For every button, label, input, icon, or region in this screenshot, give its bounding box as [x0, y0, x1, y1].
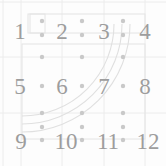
grid-number-7: 7 [98, 75, 110, 98]
overlay-left-box [28, 14, 45, 33]
grid-dot [80, 84, 84, 88]
grid-dot [80, 138, 84, 142]
grid-number-8: 8 [139, 75, 151, 98]
grid-dot [80, 111, 84, 115]
grid-dot [80, 125, 84, 129]
overlay-outer-band [30, 14, 145, 33]
grid-dot [121, 55, 125, 59]
grid-dot [121, 125, 125, 129]
grid-number-10: 10 [55, 130, 78, 153]
grid-dot [121, 84, 125, 88]
grid-dot [40, 111, 44, 115]
grid-number-11: 11 [97, 130, 119, 153]
grid-dot [80, 33, 84, 37]
dot-group [40, 19, 125, 142]
grid-dot [40, 138, 44, 142]
grid-dot [40, 19, 44, 23]
grid-dot [80, 19, 84, 23]
grid-dot [121, 138, 125, 142]
grid-dot [40, 55, 44, 59]
screenshot-canvas: 123456789101112 [0, 0, 166, 166]
grid-number-5: 5 [14, 75, 26, 98]
grid-dot [80, 55, 84, 59]
rectangle-group [22, 14, 145, 139]
grid-dot [40, 125, 44, 129]
grid-dot [40, 84, 44, 88]
grid-number-3: 3 [98, 20, 110, 43]
quarter-arc [22, 24, 130, 132]
grid-number-1: 1 [14, 20, 26, 43]
grid-number-6: 6 [56, 75, 68, 98]
grid-number-9: 9 [15, 130, 27, 153]
grid-number-2: 2 [56, 20, 68, 43]
grid-number-4: 4 [139, 20, 151, 43]
grid-dot [121, 19, 125, 23]
grid-dot [121, 111, 125, 115]
arc-group [22, 24, 130, 132]
grid-dot [121, 33, 125, 37]
grid-dot [40, 33, 44, 37]
grid-number-12: 12 [137, 130, 160, 153]
